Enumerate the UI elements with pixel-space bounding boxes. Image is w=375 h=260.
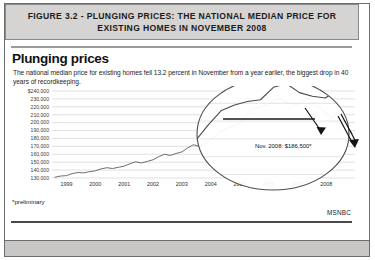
- svg-text:180,000: 180,000: [31, 135, 50, 141]
- figure-container: FIGURE 3.2 - PLUNGING PRICES: THE NATION…: [0, 0, 375, 260]
- bottom-divider: [11, 221, 352, 223]
- svg-text:1999: 1999: [60, 181, 72, 187]
- y-axis-tick-labels: $240,000230,000220,000210,000200,000190,…: [28, 88, 49, 181]
- magnifier-lens: [193, 86, 359, 198]
- svg-text:200,000: 200,000: [31, 119, 50, 125]
- svg-text:190,000: 190,000: [31, 127, 50, 133]
- figure-footer-band: [4, 241, 370, 257]
- svg-text:210,000: 210,000: [31, 112, 50, 118]
- svg-text:2002: 2002: [147, 181, 159, 187]
- svg-text:150,000: 150,000: [31, 159, 50, 165]
- svg-text:2004: 2004: [205, 181, 217, 187]
- svg-text:160,000: 160,000: [31, 151, 50, 157]
- svg-text:2008: 2008: [320, 181, 332, 187]
- svg-text:140,000: 140,000: [31, 167, 50, 173]
- line-chart-svg: $240,000230,000220,000210,000200,000190,…: [5, 86, 359, 198]
- chart-card: Plunging prices The national median pric…: [5, 44, 359, 236]
- footnote-preliminary: *preliminary: [12, 198, 45, 205]
- svg-text:2003: 2003: [176, 181, 188, 187]
- figure-caption-text: FIGURE 3.2 - PLUNGING PRICES: THE NATION…: [13, 10, 351, 35]
- svg-text:170,000: 170,000: [31, 143, 50, 149]
- svg-text:2001: 2001: [118, 181, 130, 187]
- source-attribution: MSNBC: [327, 209, 351, 216]
- svg-text:220,000: 220,000: [31, 104, 50, 110]
- figure-caption-bar: FIGURE 3.2 - PLUNGING PRICES: THE NATION…: [5, 4, 359, 40]
- svg-text:230,000: 230,000: [31, 96, 50, 102]
- svg-text:2000: 2000: [89, 181, 101, 187]
- svg-text:130,000: 130,000: [31, 175, 50, 181]
- plot-area: $240,000230,000220,000210,000200,000190,…: [5, 86, 359, 198]
- chart-title: Plunging prices: [12, 51, 109, 66]
- svg-text:$240,000: $240,000: [28, 88, 49, 94]
- nov-2008-annotation: Nov. 2008: $186,500*: [255, 143, 312, 149]
- chart-subtitle: The national median price for existing h…: [13, 68, 349, 86]
- top-divider: [11, 46, 352, 48]
